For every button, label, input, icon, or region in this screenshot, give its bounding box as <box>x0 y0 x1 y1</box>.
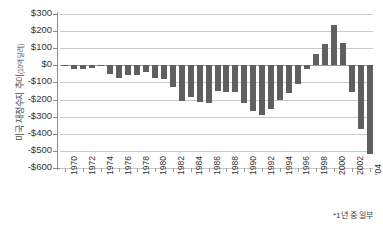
y-axis-tick-label: $300 <box>4 7 52 18</box>
bar <box>125 65 131 74</box>
y-axis-tick-label: -$100 <box>4 75 52 86</box>
x-axis-tick <box>155 168 156 172</box>
x-axis-tick <box>298 168 299 172</box>
bar <box>143 65 149 72</box>
bar <box>71 65 77 69</box>
bar <box>358 65 364 129</box>
x-axis-tick-label: 1988 <box>230 156 240 175</box>
y-axis-tick-label: $0 <box>4 58 52 69</box>
x-axis-tick-label: 1976 <box>123 156 133 175</box>
bar <box>277 65 283 100</box>
bar <box>170 65 176 87</box>
x-axis-tick-label: 1998 <box>319 156 329 175</box>
bar <box>161 65 167 79</box>
bar <box>367 65 373 154</box>
bar <box>286 65 292 93</box>
x-axis-tick <box>65 168 66 172</box>
x-axis-tick-label: '04 <box>373 164 383 175</box>
bar <box>250 65 256 111</box>
bar <box>197 65 203 101</box>
y-axis-tick-label: $200 <box>4 24 52 35</box>
bar <box>179 65 185 101</box>
x-axis-tick <box>191 168 192 172</box>
x-axis-tick-label: 1972 <box>87 156 97 175</box>
bar <box>80 65 86 69</box>
x-axis-tick-label: 2002 <box>355 156 365 175</box>
plot-area <box>60 14 373 168</box>
x-axis-tick-label: 1996 <box>301 156 311 175</box>
y-axis-line <box>57 12 58 170</box>
bar <box>241 65 247 103</box>
bar <box>107 65 113 74</box>
y-axis-tick-label: -$600 <box>4 161 52 172</box>
bar-series <box>60 14 373 168</box>
y-axis-tick-label: $100 <box>4 41 52 52</box>
x-axis-tick <box>352 168 353 172</box>
bar <box>223 65 229 92</box>
x-axis-tick <box>173 168 174 172</box>
bar <box>313 54 319 66</box>
bar <box>322 44 328 66</box>
bar <box>349 65 355 92</box>
x-axis-tick <box>209 168 210 172</box>
x-axis-tick <box>83 168 84 172</box>
x-axis-tick-label: 1986 <box>212 156 222 175</box>
y-axis-tick-label: -$300 <box>4 110 52 121</box>
x-axis-tick-label: 1992 <box>266 156 276 175</box>
bar <box>116 65 122 78</box>
x-axis-tick-label: 2000 <box>337 156 347 175</box>
y-axis-tick-label: -$400 <box>4 127 52 138</box>
bar <box>232 65 238 91</box>
x-axis-tick-label: 1970 <box>69 156 79 175</box>
bar <box>89 65 95 68</box>
x-axis-tick-label: 1990 <box>248 156 258 175</box>
bar <box>215 65 221 91</box>
bar <box>98 65 104 66</box>
x-axis-tick <box>370 168 371 172</box>
bar <box>268 65 274 109</box>
x-axis-tick <box>280 168 281 172</box>
bar <box>331 25 337 65</box>
bar <box>206 65 212 103</box>
x-axis-tick-label: 1974 <box>105 156 115 175</box>
x-axis-tick <box>316 168 317 172</box>
x-axis-tick-label: 1984 <box>194 156 204 175</box>
x-axis-tick <box>226 168 227 172</box>
bar <box>259 65 265 115</box>
bar <box>188 65 194 97</box>
bar <box>340 43 346 65</box>
x-axis-tick-labels: 1970197219741976197819801982198419861988… <box>60 172 373 216</box>
bar <box>295 65 301 83</box>
x-axis-tick-label: 1982 <box>176 156 186 175</box>
x-axis-tick-label: 1980 <box>158 156 168 175</box>
bar <box>304 65 310 69</box>
bar <box>152 65 158 78</box>
x-axis-tick <box>244 168 245 172</box>
y-axis-tick-label: -$200 <box>4 93 52 104</box>
footnote: *1년 중 일부 <box>333 209 373 220</box>
x-axis-tick <box>334 168 335 172</box>
x-axis-tick-label: 1994 <box>284 156 294 175</box>
x-axis-tick <box>137 168 138 172</box>
bar <box>134 65 140 75</box>
bar <box>62 65 68 66</box>
x-axis-tick <box>101 168 102 172</box>
x-axis-tick <box>119 168 120 172</box>
x-axis-tick-label: 1978 <box>141 156 151 175</box>
x-axis-tick <box>262 168 263 172</box>
y-axis-tick-label: -$500 <box>4 144 52 155</box>
